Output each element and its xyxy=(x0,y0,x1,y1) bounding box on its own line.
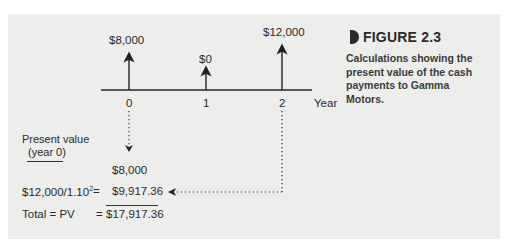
total-equals: = xyxy=(96,208,103,220)
arrowhead-left-icon xyxy=(168,188,176,196)
axis-label: Year xyxy=(314,97,337,109)
year-tick-1: 1 xyxy=(203,97,209,109)
total-value: $17,917.36 xyxy=(106,208,164,220)
figure-label: FIGURE 2.3 xyxy=(363,29,441,45)
pv-heading-underline xyxy=(27,161,63,162)
arrowhead-down-icon xyxy=(125,145,133,152)
pv-heading-line1: Present value xyxy=(22,133,89,145)
cash-flow-label-year-1: $0 xyxy=(199,53,212,65)
year-tick-2: 2 xyxy=(279,97,285,109)
pv-row2-equals: = xyxy=(93,185,100,197)
total-label: Total = PV xyxy=(22,208,75,220)
cash-flow-label-year-0: $8,000 xyxy=(109,34,144,46)
pv-row2-formula-text: $12,000/1.10 xyxy=(22,186,89,198)
pv-row2-formula: $12,000/1.102 xyxy=(22,185,93,198)
sum-rule xyxy=(106,205,158,206)
figure-caption: Calculations showing the present value o… xyxy=(346,52,481,106)
pv-row1-value: $8,000 xyxy=(112,164,147,176)
pv-heading-line2: (year 0) xyxy=(28,146,66,158)
pv-row2-value: $9,917.36 xyxy=(112,185,163,197)
year-tick-0: 0 xyxy=(126,97,132,109)
cash-flow-label-year-2: $12,000 xyxy=(263,26,305,38)
figure-marker-icon xyxy=(350,30,359,44)
